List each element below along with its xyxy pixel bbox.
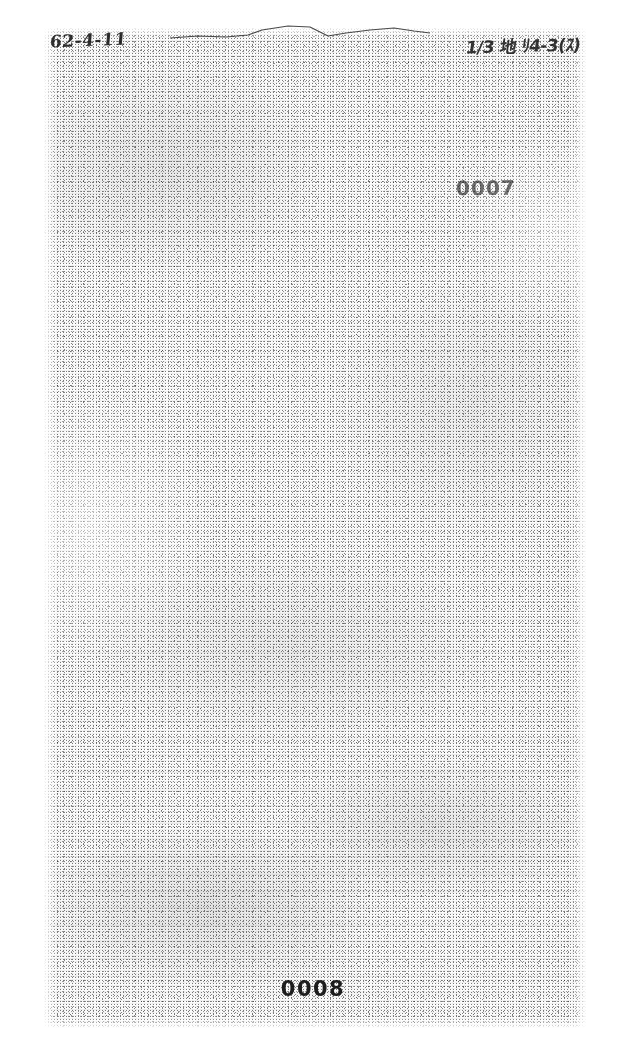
- torn-edge-line: [170, 24, 430, 46]
- scanned-page: 62-4-11 1/3 地 ﾘ4-3(ｽ) 0007 0008: [0, 0, 626, 1046]
- archive-stamp-number: 0007: [456, 176, 516, 201]
- page-number: 0008: [0, 977, 626, 1001]
- handwritten-date-annotation: 62-4-11: [49, 28, 127, 51]
- handwritten-reference-annotation: 1/3 地 ﾘ4-3(ｽ): [464, 30, 582, 58]
